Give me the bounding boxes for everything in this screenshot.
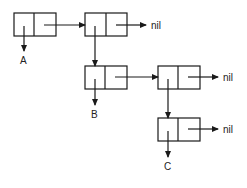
- label-nil-1: nil: [151, 20, 161, 31]
- label-b: B: [91, 109, 98, 120]
- label-nil-2: nil: [223, 72, 233, 83]
- label-c: C: [164, 161, 171, 172]
- list-structure-diagram: A B C nil nil nil: [0, 0, 247, 188]
- label-nil-3: nil: [223, 124, 233, 135]
- label-a: A: [20, 55, 27, 66]
